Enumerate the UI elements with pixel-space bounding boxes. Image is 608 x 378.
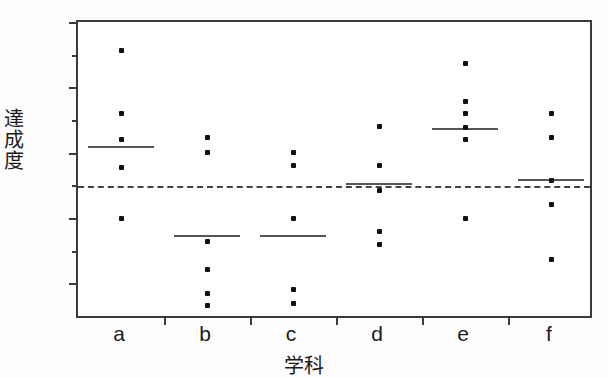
group-mean-line: [88, 146, 154, 148]
data-point: [205, 303, 210, 308]
y-axis-tick: [69, 283, 78, 285]
data-point: [291, 287, 296, 292]
data-point: [119, 48, 124, 53]
x-axis-tick-label: e: [443, 322, 483, 346]
y-axis-tick: [69, 153, 78, 155]
data-point: [549, 135, 554, 140]
data-point: [463, 216, 468, 221]
x-axis-tick: [422, 316, 424, 325]
y-axis-title: 達成度: [2, 108, 22, 171]
data-point: [205, 291, 210, 296]
data-point: [291, 216, 296, 221]
data-point: [549, 202, 554, 207]
data-point: [119, 165, 124, 170]
y-axis-minor-tick: [72, 251, 78, 253]
data-point: [463, 125, 468, 130]
x-axis-tick: [336, 316, 338, 325]
x-axis-tick-label: c: [271, 322, 311, 346]
data-point: [377, 242, 382, 247]
data-point: [119, 137, 124, 142]
chart-figure: 7580859095 abcdef 達成度 学科: [0, 0, 608, 378]
x-axis-title: 学科: [0, 350, 608, 378]
group-mean-line: [174, 235, 240, 237]
x-axis-tick-label: b: [185, 322, 225, 346]
data-point: [291, 163, 296, 168]
data-point: [377, 188, 382, 193]
data-point: [549, 111, 554, 116]
data-point: [463, 61, 468, 66]
group-mean-line: [260, 235, 326, 237]
x-axis-tick-label: d: [357, 322, 397, 346]
y-axis-tick: [69, 87, 78, 89]
group-mean-line: [346, 183, 412, 185]
data-point: [119, 216, 124, 221]
data-point: [377, 163, 382, 168]
x-axis-tick: [250, 316, 252, 325]
data-point: [549, 257, 554, 262]
data-point: [205, 239, 210, 244]
data-point: [463, 137, 468, 142]
y-axis-tick: [69, 22, 78, 24]
data-point: [549, 178, 554, 183]
data-point: [377, 229, 382, 234]
reference-mean-line: [78, 186, 590, 188]
x-axis-tick-label: f: [529, 322, 569, 346]
data-point: [463, 99, 468, 104]
data-point: [377, 124, 382, 129]
y-axis-tick: [69, 218, 78, 220]
data-point: [205, 150, 210, 155]
x-axis-tick: [508, 316, 510, 325]
data-point: [291, 150, 296, 155]
data-point: [291, 301, 296, 306]
data-point: [119, 111, 124, 116]
y-axis-minor-tick: [72, 55, 78, 57]
y-axis-minor-tick: [72, 120, 78, 122]
data-point: [463, 111, 468, 116]
x-axis-tick-label: a: [99, 322, 139, 346]
plot-area: [76, 20, 592, 318]
data-point: [205, 267, 210, 272]
x-axis-tick: [164, 316, 166, 325]
data-point: [205, 135, 210, 140]
